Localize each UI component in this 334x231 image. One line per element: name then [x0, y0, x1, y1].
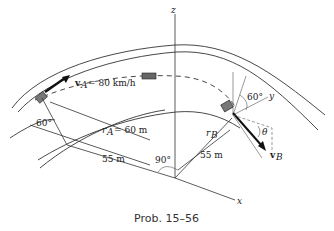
z-axis-label: z: [170, 5, 176, 15]
car-b-tangent: [233, 115, 262, 158]
velocity-a-symbol: v: [74, 78, 81, 88]
theta-label: θ: [262, 127, 268, 137]
velocity-b-arrow: [233, 113, 262, 146]
road-outer-edge: [12, 45, 325, 115]
angle-a-label: 60°: [36, 118, 52, 128]
radius-b-subscript: B: [210, 130, 218, 140]
velocity-a-subscript: A: [80, 80, 88, 90]
car-a: [35, 91, 47, 103]
x-axis: [175, 178, 235, 200]
velocity-a-value: = 80 km/h: [88, 78, 136, 88]
car-top: [142, 73, 156, 79]
radius-a-value: = 60 m: [114, 125, 148, 135]
distance-b-label: 55 m: [200, 150, 223, 160]
radius-a-subscript: A: [106, 127, 114, 137]
velocity-b-subscript: B: [275, 152, 283, 162]
distance-a-label: 55 m: [102, 154, 125, 164]
radius-line-b: [175, 118, 232, 178]
diagram-canvas: z x y v A = 80 km/h 60° r A = 60 m 55 m …: [0, 0, 334, 231]
velocity-b-symbol: v: [269, 150, 276, 160]
right-angle-label: 90°: [155, 155, 171, 165]
angle-b-label: 60°: [247, 92, 263, 102]
x-axis-label: x: [237, 196, 242, 206]
y-axis-label: y: [268, 91, 275, 101]
theta-arc: [258, 126, 260, 137]
figure-caption: Prob. 15–56: [134, 212, 199, 225]
